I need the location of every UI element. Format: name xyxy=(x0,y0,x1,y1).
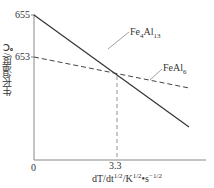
x-axis-label: dT/dt1/2/K1/2•s−1/2 xyxy=(92,172,162,184)
chart-canvas xyxy=(0,0,214,188)
x-tick-label-0: 0 xyxy=(31,162,36,173)
y-tick-label-655: 655 xyxy=(15,9,30,20)
y-axis-label: 生长温度/℃ xyxy=(2,42,16,96)
x-tick-label-3-3: 3.3 xyxy=(109,160,122,171)
legend-fe4al13: Fe4Al13 xyxy=(130,26,161,40)
y-tick-label-653: 653 xyxy=(15,51,30,62)
feal6-leader-line xyxy=(150,69,162,80)
fe4al13-leader-line xyxy=(108,32,129,49)
legend-feal6: FeAl6 xyxy=(163,62,187,76)
